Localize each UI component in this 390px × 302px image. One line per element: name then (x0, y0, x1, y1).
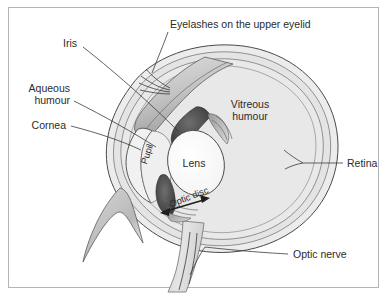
label-eyelashes: Eyelashes on the upper eyelid (170, 18, 311, 30)
label-retina: Retina (347, 157, 378, 169)
label-lens: Lens (183, 157, 206, 169)
label-optic-nerve: Optic nerve (293, 248, 347, 260)
label-aqueous-humour-line1: Aqueous (29, 82, 70, 94)
label-iris: Iris (63, 37, 77, 49)
eye-anatomy-figure: Eyelashes on the upper eyelid Iris Aqueo… (0, 0, 390, 302)
label-cornea: Cornea (32, 119, 67, 131)
eye-cross-section-diagram: Eyelashes on the upper eyelid Iris Aqueo… (0, 0, 390, 302)
label-vitreous-humour-line2: humour (232, 110, 268, 122)
label-aqueous-humour-line2: humour (34, 94, 70, 106)
label-vitreous-humour-line1: Vitreous (231, 98, 269, 110)
